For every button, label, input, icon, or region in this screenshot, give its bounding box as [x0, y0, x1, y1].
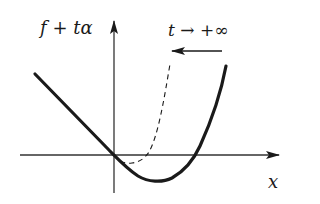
plus-symbol: +: [47, 17, 74, 38]
dashed-curve: [114, 64, 170, 163]
x-axis-label: x: [268, 173, 278, 191]
limit-annotation: t → +∞: [168, 22, 228, 39]
solid-curve: [35, 66, 226, 181]
t-symbol: t: [168, 20, 175, 40]
infinity-symbol: +∞: [200, 20, 228, 40]
alpha-symbol: α: [80, 17, 92, 38]
f-symbol: f: [40, 17, 47, 38]
y-axis-label: f + tα: [40, 19, 93, 37]
arrow-right-icon: →: [175, 20, 200, 40]
